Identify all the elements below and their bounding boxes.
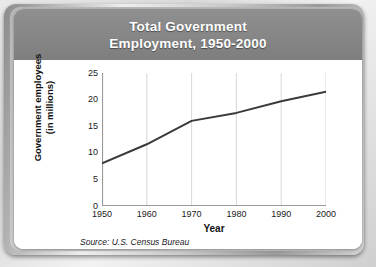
chart-title-line-2: Employment, 1950-2000 <box>109 35 266 52</box>
chart-header: Total Government Employment, 1950-2000 <box>14 9 362 60</box>
y-tick-label-5: 5 <box>78 175 98 184</box>
gridlines <box>147 73 326 206</box>
data-series-line <box>102 92 326 164</box>
y-axis-title-line-1: Government employees <box>32 52 44 164</box>
y-tick-label-25: 25 <box>78 69 98 78</box>
x-tick-label-1960: 1960 <box>129 209 165 219</box>
source-note: Source: U.S. Census Bureau <box>80 237 189 247</box>
x-axis-tick-labels: 195019601970198019902000 <box>102 209 326 221</box>
x-tick-label-1990: 1990 <box>263 209 299 219</box>
x-tick-label-1980: 1980 <box>218 209 254 219</box>
y-tick-label-20: 20 <box>78 95 98 104</box>
axis-lines <box>102 73 326 206</box>
chart-card: Total Government Employment, 1950-2000 G… <box>14 9 362 249</box>
x-tick-label-1970: 1970 <box>174 209 210 219</box>
y-axis-title-line-2: (in millions) <box>43 52 55 164</box>
y-tick-label-15: 15 <box>78 122 98 131</box>
y-tick-label-10: 10 <box>78 148 98 157</box>
y-axis-tick-labels: 0510152025 <box>74 73 98 206</box>
plot-svg <box>102 73 326 206</box>
x-axis-title: Year <box>102 223 326 234</box>
chart-body: Government employees (in millions) 05101… <box>14 60 362 249</box>
chart-frame-outer: Total Government Employment, 1950-2000 G… <box>0 0 376 267</box>
chart-title-line-1: Total Government <box>129 18 247 35</box>
plot-area <box>102 73 326 206</box>
y-axis-title: Government employees (in millions) <box>32 52 55 164</box>
x-tick-label-2000: 2000 <box>308 209 344 219</box>
x-tick-label-1950: 1950 <box>84 209 120 219</box>
